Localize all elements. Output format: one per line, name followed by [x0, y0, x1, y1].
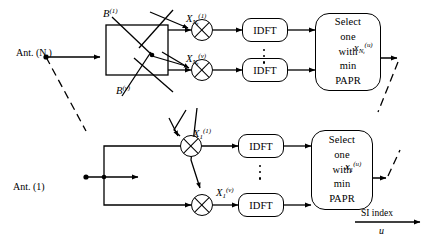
idft-label: IDFT	[249, 141, 273, 152]
leader-B1-upper	[112, 17, 152, 55]
phase-sequence-label-bv: B(v)	[116, 85, 130, 96]
dashed-antenna-line-output-upper	[378, 62, 398, 112]
output-label-x-1-u: x1(u)	[345, 161, 361, 173]
antenna-nt-label: Ant. (Nt)	[16, 48, 52, 59]
select-line-4: min	[340, 59, 357, 74]
si-index-variable: u	[379, 226, 384, 236]
vertical-ellipsis-lower	[259, 161, 262, 184]
idft-label: IDFT	[249, 200, 273, 211]
wire-lower-split-to-multv	[104, 177, 191, 205]
select-line-4: min	[334, 177, 351, 192]
vertical-ellipsis-upper	[263, 45, 266, 68]
upper-split-rect	[106, 25, 168, 75]
phase-sequence-label-b1: B(1)	[103, 8, 118, 19]
select-min-papr-block-lower: Select one with min PAPR	[311, 130, 373, 210]
figure-canvas: IDFT IDFT IDFT IDFT Select one with min …	[0, 0, 427, 245]
signal-label-x-nt-1: XNt(1)	[186, 13, 206, 26]
select-line-1: Select	[329, 133, 355, 148]
idft-block-lower-1: IDFT	[238, 134, 284, 158]
idft-label: IDFT	[253, 25, 277, 36]
dashed-antenna-line-upper	[46, 57, 86, 131]
dashed-antenna-line-output-lower	[388, 150, 400, 176]
select-line-1: Select	[335, 15, 361, 30]
idft-block-lower-v: IDFT	[238, 193, 284, 217]
signal-label-x-1-1: X1(1)	[193, 128, 211, 140]
wire-lower-split-to-mult1	[104, 146, 191, 177]
idft-block-upper-1: IDFT	[242, 18, 288, 42]
signal-label-x-nt-v: XNt(v)	[186, 53, 206, 66]
dot-lower-split	[102, 175, 107, 180]
select-line-5: PAPR	[329, 192, 355, 207]
wire-select-upper-output	[380, 50, 397, 58]
output-label-x-nt-u: xNt(u)	[354, 42, 373, 55]
select-line-5: PAPR	[335, 74, 361, 89]
wire-select-lower-output	[372, 170, 386, 178]
leader-phase-upper-c	[152, 56, 186, 66]
dot-phase-upper	[150, 53, 155, 58]
arrow-phase-into-lower-mult1	[169, 118, 178, 136]
dot-ant-1	[83, 174, 88, 179]
multiplier-lower-branch-v	[191, 194, 213, 216]
si-index-label: SI index	[361, 209, 393, 219]
signal-label-x-1-v: X1(v)	[216, 187, 234, 199]
antenna-1-label: Ant. (1)	[13, 182, 45, 192]
